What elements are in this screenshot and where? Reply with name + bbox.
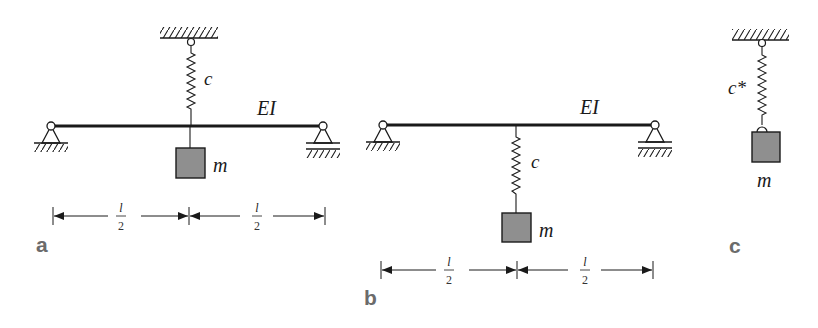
svg-text:2: 2 bbox=[446, 273, 452, 287]
panel-c: c* m c bbox=[728, 29, 789, 257]
svg-text:l: l bbox=[583, 255, 587, 269]
dimension-line bbox=[381, 261, 653, 279]
spring-icon bbox=[187, 46, 195, 126]
ceiling-support-icon bbox=[160, 27, 218, 46]
panel-label-b: b bbox=[364, 286, 377, 309]
fraction-right: l 2 bbox=[580, 255, 590, 287]
mass-label: m bbox=[757, 169, 771, 191]
panel-b: EI c m bbox=[364, 96, 672, 309]
beam-spring-mass-figure: c EI m bbox=[0, 0, 818, 328]
spring-label: c bbox=[531, 151, 540, 172]
svg-text:l: l bbox=[119, 201, 123, 215]
fraction-right: l 2 bbox=[252, 201, 262, 233]
spring-icon bbox=[512, 125, 520, 213]
beam-stiffness-label: EI bbox=[256, 97, 277, 119]
spring-icon bbox=[758, 47, 766, 125]
mass-block bbox=[502, 213, 531, 242]
svg-text:2: 2 bbox=[118, 219, 124, 233]
panel-label-c: c bbox=[729, 234, 741, 257]
panel-label-a: a bbox=[36, 233, 48, 256]
mass-block bbox=[752, 132, 780, 162]
mass-block bbox=[176, 148, 205, 178]
svg-text:l: l bbox=[255, 201, 259, 215]
mass-label: m bbox=[213, 154, 227, 176]
fraction-left: l 2 bbox=[116, 201, 126, 233]
svg-text:2: 2 bbox=[582, 273, 588, 287]
beam-stiffness-label: EI bbox=[579, 96, 600, 118]
svg-text:l: l bbox=[447, 255, 451, 269]
mass-label: m bbox=[539, 219, 553, 241]
dimension-line bbox=[53, 207, 325, 225]
panel-a: c EI m bbox=[34, 27, 340, 256]
ceiling-support-icon bbox=[732, 29, 789, 47]
spring-label: c* bbox=[728, 77, 746, 98]
hinge-icon bbox=[757, 127, 767, 132]
spring-label: c bbox=[204, 68, 213, 89]
svg-text:2: 2 bbox=[254, 219, 260, 233]
fraction-left: l 2 bbox=[444, 255, 454, 287]
